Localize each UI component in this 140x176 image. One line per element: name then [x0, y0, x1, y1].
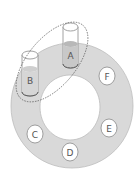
slot-c-label: C: [32, 130, 38, 140]
slot-d-label: D: [67, 148, 74, 158]
slot-f: F: [99, 67, 115, 85]
cylinder-b-label: B: [27, 76, 33, 86]
slot-f-label: F: [104, 72, 109, 82]
slot-c: C: [27, 125, 43, 143]
slot-e-label: E: [106, 124, 112, 134]
slot-e: E: [101, 119, 117, 137]
cylinder-a: A: [63, 23, 78, 68]
cylinder-a-label: A: [67, 51, 74, 61]
carousel-diagram: F E D C A B: [0, 0, 140, 176]
cylinder-b: B: [22, 51, 38, 96]
slot-d: D: [62, 143, 78, 161]
